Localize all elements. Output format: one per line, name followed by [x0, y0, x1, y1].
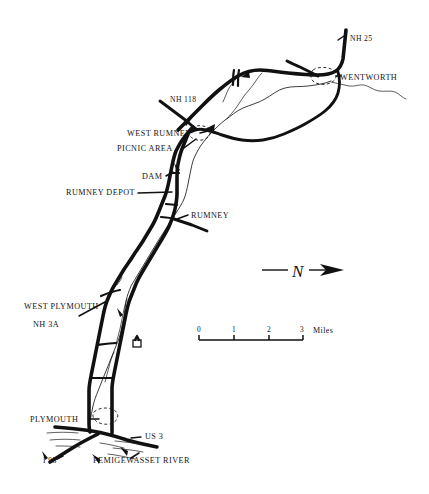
label-nh-3a: NH 3A — [33, 320, 59, 329]
map-figure: N 0 1 2 3 Miles NH 25 WENTWORTH NH 118 W… — [0, 0, 429, 494]
leader-nh-25 — [338, 36, 344, 40]
label-rumney-depot: RUMNEY DEPOT — [66, 188, 135, 197]
site-marker-box — [133, 340, 141, 347]
label-dam: DAM — [142, 172, 163, 181]
leader-rumney — [177, 215, 188, 219]
label-nh-118: NH 118 — [170, 95, 196, 104]
label-plymouth: PLYMOUTH — [30, 415, 78, 424]
label-wentworth: WENTWORTH — [340, 73, 397, 82]
scale-unit-label: Miles — [313, 326, 333, 335]
label-nh-25: NH 25 — [350, 34, 372, 43]
mid-lower-crossing — [97, 343, 116, 345]
stream-mark-b — [238, 70, 239, 86]
label-us-3: US 3 — [145, 432, 163, 441]
label-rumney: RUMNEY — [191, 211, 229, 220]
plymouth-village-outline — [93, 408, 118, 424]
rumney-crossing-upper — [166, 204, 177, 205]
north-letter: N — [291, 262, 305, 281]
map-canvas: N 0 1 2 3 Miles NH 25 WENTWORTH NH 118 W… — [0, 0, 429, 494]
flow-arrow-4 — [117, 308, 123, 317]
leader-rumney-depot — [138, 192, 172, 193]
label-west-plymouth: WEST PLYMOUTH — [24, 302, 99, 311]
scale-bar: 0 1 2 3 Miles — [197, 325, 333, 340]
leader-west-rumney — [200, 131, 208, 133]
label-i-93: I 93 — [43, 456, 57, 465]
flow-arrow-7 — [120, 447, 128, 456]
village-outlines — [93, 67, 336, 424]
north-arrow: N — [262, 262, 344, 281]
stream-mark-a — [233, 70, 234, 85]
label-west-rumney: WEST RUMNEY — [127, 129, 192, 138]
label-leaders — [57, 36, 344, 459]
scale-label-2: 2 — [267, 325, 271, 334]
scale-label-3: 3 — [300, 325, 304, 334]
leader-us-3 — [131, 437, 141, 438]
scale-label-0: 0 — [197, 325, 201, 334]
scale-label-1: 1 — [232, 325, 236, 334]
rumney-spur — [174, 219, 207, 231]
label-pemigewasset-river: PEMIGEWASSET RIVER — [93, 456, 190, 465]
i-93-road — [50, 434, 98, 462]
label-picnic-area: PICNIC AREA — [117, 144, 173, 153]
